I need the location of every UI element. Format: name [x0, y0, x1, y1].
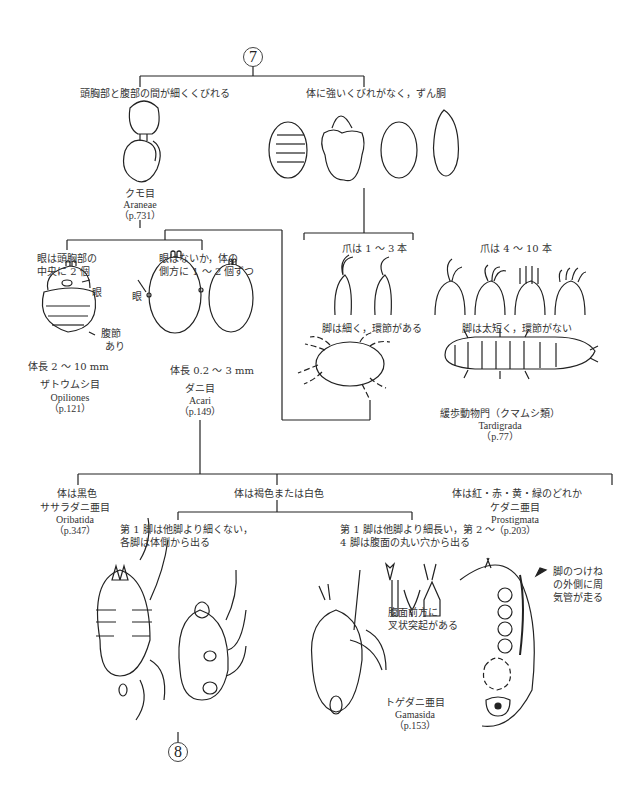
label-peritreme-3: 気管が走る	[553, 591, 603, 604]
label-first-leg-not-thin-1: 第 1 脚は他脚より細くない，	[120, 523, 253, 536]
label-claws-1-3: 爪は 1 〜 3 本	[342, 242, 407, 255]
label-eyes-central-2: 中央に 2 個	[37, 265, 90, 278]
label-first-leg-not-thin-2: 各脚は体側から出る	[120, 536, 210, 549]
label-first-leg-long-1: 第 1 脚は他脚より細長い，第 2 〜	[340, 523, 495, 536]
tardigrada-page: （p.77）	[440, 430, 560, 443]
claw-drawings	[335, 255, 586, 315]
label-fork-process-2: 叉状突起がある	[388, 619, 458, 632]
acari-size: 体長 0.2 〜 3 mm	[170, 364, 254, 377]
mite-body-drawing	[316, 342, 384, 386]
label-eyes-lateral-1: 眼はないか，体の	[159, 252, 238, 265]
label-no-constriction: 体に強いくびれがなく，ずん胴	[306, 87, 446, 100]
label-stubby-legs: 脚は太短く，環節がない	[462, 322, 572, 335]
node-8: 8	[168, 742, 188, 762]
gamasida-page: （p.153）	[380, 719, 450, 732]
label-eyes-lateral-2: 側方に 1 〜 2 個ずつ	[159, 265, 254, 278]
label-fork-process-1: 腹面前方に	[388, 606, 438, 619]
acari-eye-label: 眼	[132, 290, 142, 303]
label-body-colored: 体は紅・赤・黄・緑のどれか	[452, 487, 582, 500]
node-7: 7	[243, 47, 263, 67]
araneae-page: （p.731）	[115, 209, 165, 222]
label-claws-4-10: 爪は 4 〜 10 本	[480, 242, 552, 255]
label-body-black: 体は黒色	[57, 487, 97, 500]
label-first-leg-long-2: 4 脚は腹面の丸い穴から出る	[340, 536, 470, 549]
body-outlines-drawing	[269, 110, 459, 181]
label-peritreme-2: の外側に周	[553, 578, 603, 591]
oribatida-page: （p.347）	[35, 524, 115, 537]
label-peritreme-1: 脚のつけね	[553, 565, 603, 578]
opiliones-segment-label-2: あり	[105, 340, 125, 353]
opiliones-ja: ザトウムシ目	[35, 378, 105, 391]
opiliones-segment-label-1: 腹節	[101, 327, 121, 340]
opiliones-page: （p.121）	[35, 402, 105, 415]
label-body-brown-white: 体は褐色または白色	[234, 487, 324, 500]
acari-page: （p.149）	[175, 405, 225, 418]
araneae-outline-drawing	[124, 101, 161, 182]
label-thin-legs: 脚は細く，環節がある	[322, 322, 422, 335]
label-constricted-body: 頭胸部と腹部の間が細くくびれる	[80, 87, 230, 100]
label-eyes-central-1: 眼は頭胸部の	[37, 252, 97, 265]
opiliones-eye-label: 眼	[92, 286, 102, 299]
opiliones-size: 体長 2 〜 10 mm	[28, 360, 109, 373]
tardigrade-drawing	[445, 329, 598, 379]
